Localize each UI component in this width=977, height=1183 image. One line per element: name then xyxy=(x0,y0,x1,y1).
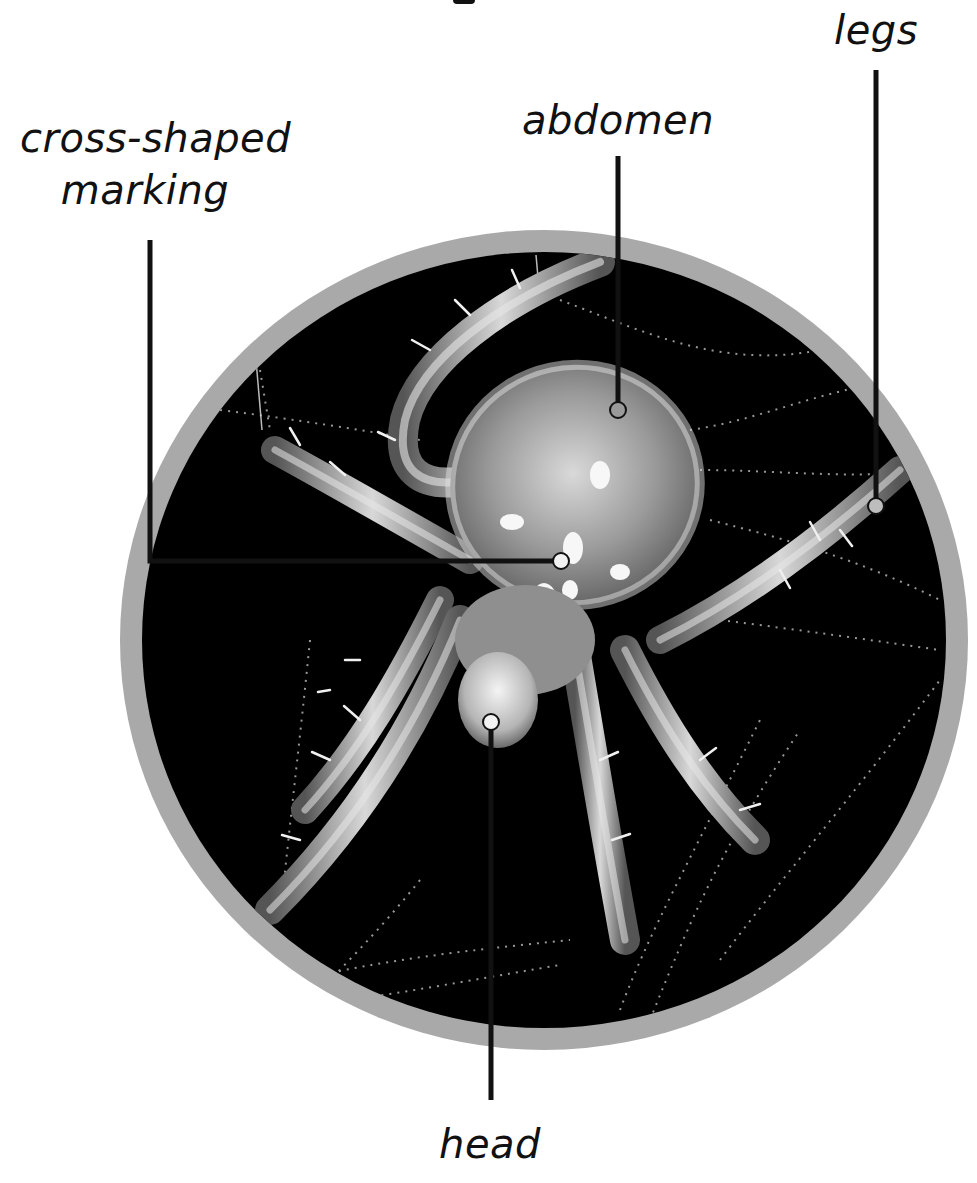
endpoint-cross-marking xyxy=(553,553,569,569)
endpoint-head xyxy=(483,714,499,730)
spider-anatomy-diagram: cross-shaped marking abdomen legs head xyxy=(0,0,977,1183)
spider-head xyxy=(458,652,538,748)
label-abdomen: abdomen xyxy=(508,94,728,146)
label-head: head xyxy=(410,1118,570,1170)
label-cross-line2: marking xyxy=(20,164,270,216)
label-cross-line1: cross-shaped xyxy=(20,112,270,164)
label-legs: legs xyxy=(826,4,926,56)
label-cross-shaped-marking: cross-shaped marking xyxy=(20,112,270,216)
endpoint-abdomen xyxy=(610,402,626,418)
endpoint-legs xyxy=(868,498,884,514)
